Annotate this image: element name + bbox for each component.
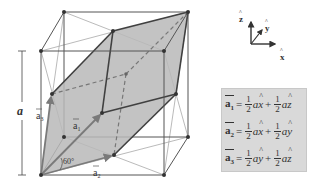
svg-text:^: ^ <box>239 9 242 15</box>
axes-indicator: z ^ y ^ x ^ <box>239 9 285 62</box>
axis-y-label: y <box>265 23 270 33</box>
primitive-cell <box>41 12 188 175</box>
primitive-vector-formulas: a1 = 12 ax + 12 az a2 = 12 ax + 12 ay a3… <box>221 88 307 172</box>
formula-a3: a3 = 12 ay + 12 az <box>225 145 292 171</box>
axis-z-label: z <box>239 14 243 24</box>
edge-length-label: a <box>17 104 23 118</box>
svg-text:a2: a2 <box>93 167 100 179</box>
svg-text:^: ^ <box>265 18 268 24</box>
angle-label: 60° <box>63 157 74 166</box>
svg-text:a3: a3 <box>36 110 43 122</box>
formula-a2: a2 = 12 ax + 12 ay <box>225 118 292 144</box>
svg-text:^: ^ <box>280 47 283 53</box>
formula-a1: a1 = 12 ax + 12 az <box>225 91 292 117</box>
axis-x-label: x <box>280 52 285 62</box>
